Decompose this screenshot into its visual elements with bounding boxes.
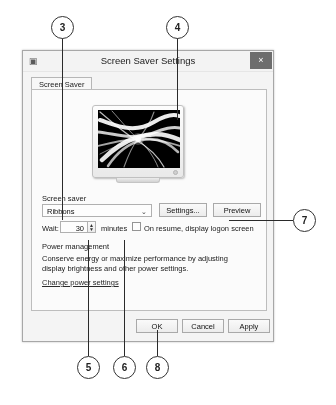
ribbons-screensaver-graphic (98, 110, 180, 168)
callout-number: 8 (155, 362, 161, 373)
monitor-power-led-icon (173, 170, 178, 175)
callout-4: 4 (166, 16, 189, 39)
power-management-description: Conserve energy or maximize performance … (42, 254, 242, 274)
callout-leader-3 (62, 38, 63, 220)
callout-number: 3 (60, 22, 66, 33)
minutes-label: minutes (101, 224, 127, 233)
close-icon[interactable]: × (250, 52, 272, 69)
title-bar: ▣ Screen Saver Settings × (23, 51, 273, 72)
wait-spinner[interactable]: ▲ ▼ (88, 221, 96, 233)
callout-leader-8 (157, 330, 158, 356)
callout-5: 5 (77, 356, 100, 379)
callout-number: 7 (302, 215, 308, 226)
screen-saver-selected-value: Ribbons (47, 207, 75, 216)
callout-leader-5 (88, 240, 89, 356)
spinner-down-icon[interactable]: ▼ (88, 227, 95, 232)
callout-leader-7 (229, 220, 293, 221)
power-management-heading: Power management (42, 242, 109, 251)
screen-saver-dropdown[interactable]: Ribbons ⌄ (42, 204, 152, 217)
monitor-screen (98, 110, 180, 168)
callout-number: 5 (86, 362, 92, 373)
monitor-bezel (92, 105, 184, 178)
screen-saver-preview-monitor (92, 105, 190, 191)
on-resume-logon-checkbox[interactable] (132, 222, 141, 231)
change-power-settings-link[interactable]: Change power settings (42, 278, 119, 287)
callout-number: 6 (122, 362, 128, 373)
screen-saver-settings-dialog: ▣ Screen Saver Settings × Screen Saver (22, 50, 274, 342)
monitor-stand (116, 178, 160, 183)
callout-3: 3 (51, 16, 74, 39)
callout-7: 7 (293, 209, 316, 232)
chevron-down-icon: ⌄ (141, 207, 147, 216)
dialog-title: Screen Saver Settings (23, 55, 273, 66)
on-resume-logon-label[interactable]: On resume, display logon screen (144, 224, 254, 233)
wait-value: 30 (76, 224, 84, 233)
apply-button[interactable]: Apply (228, 319, 270, 333)
callout-leader-6 (124, 240, 125, 356)
preview-button[interactable]: Preview (213, 203, 261, 217)
callout-leader-4 (177, 38, 178, 120)
callout-8: 8 (146, 356, 169, 379)
wait-label: Wait: (42, 224, 59, 233)
cancel-button[interactable]: Cancel (182, 319, 224, 333)
callout-6: 6 (113, 356, 136, 379)
screen-saver-label: Screen saver (42, 194, 86, 203)
tab-page-screen-saver: Screen saver Ribbons ⌄ Settings... Previ… (31, 89, 267, 311)
callout-number: 4 (175, 22, 181, 33)
settings-button[interactable]: Settings... (159, 203, 207, 217)
wait-input[interactable]: 30 (60, 221, 88, 233)
